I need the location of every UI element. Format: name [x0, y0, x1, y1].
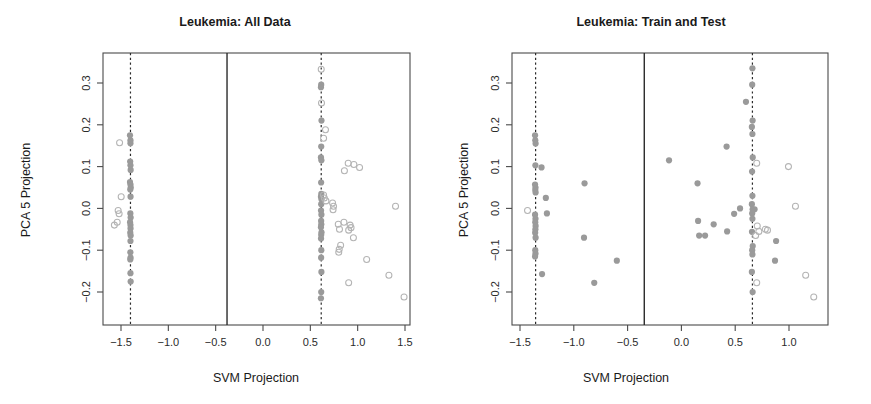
- xtick-label: −0.5: [617, 336, 639, 348]
- data-point-filled: [749, 216, 755, 222]
- data-point-filled: [581, 235, 587, 241]
- data-point-filled: [694, 180, 700, 186]
- data-point-open: [756, 228, 762, 234]
- data-point-filled: [543, 195, 549, 201]
- right-xaxis-title: SVM Projection: [583, 371, 669, 385]
- data-point-filled: [591, 280, 597, 286]
- data-point-filled: [318, 289, 324, 295]
- data-point-filled: [127, 186, 133, 192]
- data-point-filled: [539, 271, 545, 277]
- data-point-filled: [318, 143, 324, 149]
- xtick-label: 1.0: [781, 336, 796, 348]
- right-xticks: −1.5−1.0−0.50.00.51.0: [509, 325, 797, 348]
- data-point-filled: [533, 235, 539, 241]
- ytick-label: 0.3: [80, 75, 92, 90]
- ytick-label: −0.1: [489, 239, 501, 261]
- data-point-filled: [750, 289, 756, 295]
- data-point-filled: [127, 140, 133, 146]
- data-point-filled: [127, 270, 133, 276]
- data-point-open: [525, 207, 531, 213]
- xtick-label: 1.5: [397, 336, 412, 348]
- data-point-filled: [696, 232, 702, 238]
- xtick-label: −1.0: [157, 336, 179, 348]
- data-point-open: [401, 294, 407, 300]
- right-panel-svg: Leukemia: Train and Test SVM Projection …: [436, 0, 871, 404]
- data-point-filled: [749, 65, 755, 71]
- data-point-filled: [318, 247, 324, 253]
- data-point-open: [785, 164, 791, 170]
- data-point-filled: [749, 169, 755, 175]
- data-point-open: [357, 164, 363, 170]
- data-point-open: [792, 203, 798, 209]
- left-panel-title: Leukemia: All Data: [179, 15, 291, 29]
- data-point-filled: [666, 157, 672, 163]
- data-point-open: [753, 233, 759, 239]
- left-plot-area: −1.5−1.0−0.50.00.51.01.5 0.30.20.10.0−0.…: [80, 53, 413, 348]
- data-point-filled: [737, 205, 743, 211]
- figure-root: Leukemia: All Data SVM Projection PCA 5 …: [0, 0, 871, 404]
- data-point-filled: [614, 258, 620, 264]
- data-point-filled: [773, 238, 779, 244]
- data-point-open: [117, 140, 123, 146]
- data-point-open: [803, 272, 809, 278]
- data-point-open: [321, 135, 327, 141]
- data-point-filled: [127, 249, 133, 255]
- xtick-label: −0.5: [205, 336, 227, 348]
- right-data-points: [525, 65, 817, 300]
- data-point-filled: [749, 193, 755, 199]
- data-point-filled: [743, 99, 749, 105]
- right-plot-area: −1.5−1.0−0.50.00.51.0 0.30.20.10.0−0.1−0…: [489, 53, 828, 348]
- xtick-label: −1.5: [509, 336, 531, 348]
- xtick-label: 0.0: [255, 336, 270, 348]
- panel-leukemia-train-and-test: Leukemia: Train and Test SVM Projection …: [436, 0, 871, 404]
- data-point-open: [393, 203, 399, 209]
- data-point-filled: [581, 180, 587, 186]
- right-panel-title: Leukemia: Train and Test: [576, 15, 726, 29]
- data-point-filled: [711, 221, 717, 227]
- data-point-filled: [750, 118, 756, 124]
- data-point-filled: [318, 118, 324, 124]
- xtick-label: −1.5: [110, 336, 132, 348]
- data-point-filled: [749, 269, 755, 275]
- data-point-filled: [749, 124, 755, 130]
- left-xaxis-title: SVM Projection: [213, 371, 299, 385]
- data-point-filled: [731, 211, 737, 217]
- data-point-open: [754, 160, 760, 166]
- data-point-filled: [724, 228, 730, 234]
- ytick-label: 0.1: [80, 159, 92, 174]
- data-point-filled: [318, 179, 324, 185]
- ytick-label: −0.1: [80, 239, 92, 261]
- data-point-filled: [695, 218, 701, 224]
- right-yticks: 0.30.20.10.0−0.1−0.2: [489, 75, 512, 303]
- data-point-filled: [749, 131, 755, 137]
- data-point-open: [350, 235, 356, 241]
- data-point-filled: [544, 210, 550, 216]
- data-point-filled: [318, 269, 324, 275]
- data-point-open: [322, 127, 328, 133]
- data-point-open: [811, 294, 817, 300]
- xtick-label: −1.0: [563, 336, 585, 348]
- left-data-points: [111, 66, 407, 301]
- data-point-filled: [533, 189, 539, 195]
- data-point-filled: [533, 141, 539, 147]
- ytick-label: 0.1: [489, 159, 501, 174]
- data-point-filled: [127, 238, 133, 244]
- data-point-filled: [127, 256, 133, 262]
- data-point-open: [364, 256, 370, 262]
- data-point-open: [118, 194, 124, 200]
- right-vlines: [536, 53, 753, 325]
- ytick-label: 0.0: [80, 201, 92, 216]
- right-plot-box: [512, 53, 828, 325]
- data-point-filled: [128, 232, 134, 238]
- data-point-filled: [532, 253, 538, 259]
- data-point-filled: [751, 206, 757, 212]
- data-point-open: [341, 168, 347, 174]
- left-xticks: −1.5−1.0−0.50.00.51.01.5: [110, 325, 413, 348]
- data-point-filled: [532, 162, 538, 168]
- data-point-filled: [127, 194, 133, 200]
- data-point-filled: [318, 295, 324, 301]
- data-point-filled: [750, 154, 756, 160]
- left-yaxis-title: PCA 5 Projection: [19, 143, 33, 238]
- xtick-label: 1.0: [350, 336, 365, 348]
- data-point-open: [345, 160, 351, 166]
